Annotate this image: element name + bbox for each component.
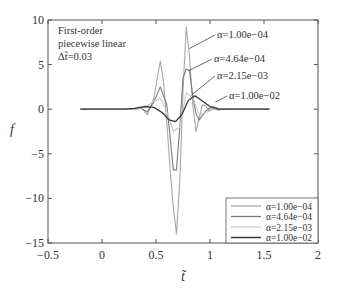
annotation-line: piecewise linear	[58, 38, 126, 49]
callout-label: α=1.00e−04	[217, 29, 269, 40]
x-tick-label: −0.5	[37, 248, 59, 262]
x-tick-label: 1	[207, 248, 213, 262]
callout-leader	[189, 35, 215, 49]
callout-label: α=4.64e−04	[214, 53, 266, 64]
y-tick-label: −10	[25, 191, 44, 205]
x-tick-label: 1.5	[257, 248, 272, 262]
x-tick-label: 0.5	[149, 248, 164, 262]
y-tick-label: −5	[31, 147, 44, 161]
annotation-line: First-order	[58, 25, 103, 36]
y-tick-label: 10	[32, 13, 44, 27]
legend-entry: α=1.00e−02	[266, 233, 312, 243]
callout-leader	[192, 76, 215, 95]
x-tick-label: 2	[315, 248, 321, 262]
callout-label: α=1.00e−02	[229, 90, 280, 101]
y-axis-label: f	[10, 122, 16, 137]
legend-entry: α=1.00e−04	[266, 202, 312, 212]
x-axis-label: t̃	[181, 269, 187, 284]
series-callouts: α=1.00e−04α=4.64e−04α=2.15e−03α=1.00e−02	[188, 29, 279, 102]
method-annotation: First-orderpiecewise linearΔt̃=0.03	[58, 25, 126, 62]
y-tick-label: 0	[38, 102, 44, 116]
callout-leader	[215, 96, 227, 102]
legend-entry: α=2.15e−03	[266, 223, 312, 233]
series-line-1	[80, 69, 269, 170]
y-tick-label: −15	[25, 236, 44, 250]
chart-figure: −0.500.511.52−15−10−50510 First-orderpie…	[0, 0, 339, 289]
x-tick-label: 0	[99, 248, 105, 262]
legend-entry: α=4.64e−04	[266, 212, 312, 222]
annotation-line: Δt̃=0.03	[58, 51, 92, 62]
callout-label: α=2.15e−03	[217, 70, 268, 81]
y-tick-label: 5	[38, 58, 44, 72]
callout-leader	[188, 59, 212, 71]
legend: α=1.00e−04α=4.64e−04α=2.15e−03α=1.00e−02	[226, 198, 318, 243]
